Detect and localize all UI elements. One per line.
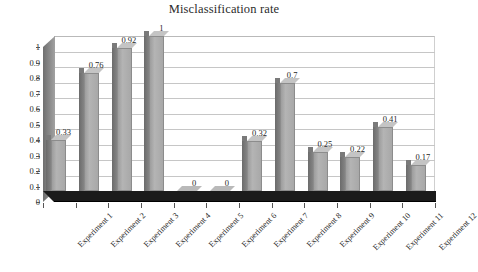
bar-front-face [411,165,426,191]
y-axis-tick-label: 0.1 [6,182,40,192]
x-axis-label: Experiment 8 [305,211,343,249]
x-axis-tick-mark [76,203,77,208]
x-axis-label: Experiment 2 [109,211,147,249]
x-axis-tick-mark [206,203,207,208]
bar-front-face [345,157,360,191]
y-axis-tick-mark [36,63,40,64]
bar-front-face [51,140,66,191]
bar-front-face [378,127,393,191]
bar[interactable]: 0.92 [117,48,132,191]
y-axis: 10.90.80.70.60.50.40.30.20.10 [0,36,40,202]
x-axis-tick-mark [402,203,403,208]
y-axis-tick-label: 0 [6,197,40,207]
x-axis-tick-mark [108,203,109,208]
bar[interactable]: 0.32 [247,141,262,191]
bar-value-label: 0.76 [80,60,112,70]
bar[interactable]: 0.33 [51,140,66,191]
bar-value-label: 0.92 [113,35,145,45]
bar-front-face [280,83,295,192]
bar-front-face [117,48,132,191]
x-axis-tick-mark [435,203,436,208]
y-axis-tick-label: 0.2 [6,166,40,176]
y-axis-tick-mark [36,140,40,141]
y-axis-tick-label: 0.9 [6,58,40,68]
x-axis-tick-mark [239,203,240,208]
x-axis-tick-mark [43,203,44,208]
bar[interactable]: 0.25 [313,152,328,191]
bar-value-label: 1 [145,23,177,33]
y-axis-tick-mark [36,109,40,110]
bar-value-label: 0.22 [341,144,373,154]
y-axis-tick-mark [36,187,40,188]
bar-value-label: 0.7 [276,70,308,80]
bar[interactable]: 0.17 [411,165,426,191]
y-axis-tick-mark [36,47,40,48]
chart-title: Misclassification rate [0,2,448,17]
y-axis-tick-mark [36,156,40,157]
bar[interactable]: 0.41 [378,127,393,191]
x-axis-tick-mark [174,203,175,208]
bar-front-face [84,73,99,191]
y-axis-tick-label: 0.3 [6,151,40,161]
x-axis-label: Experiment 5 [207,211,245,249]
bar-value-label: 0.41 [374,114,406,124]
y-axis-tick-label: 0.7 [6,89,40,99]
bar-value-label: 0.32 [243,128,275,138]
bar-value-label: 0 [211,178,243,188]
bar-value-label: 0.17 [407,152,439,162]
bar-value-label: 0.25 [309,139,341,149]
bar[interactable]: 0.22 [345,157,360,191]
y-axis-tick-label: 1 [6,42,40,52]
y-axis-tick-label: 0.6 [6,104,40,114]
y-axis-tick-mark [36,125,40,126]
bar-front-face [247,141,262,191]
y-axis-tick-mark [36,171,40,172]
x-axis-tick-mark [370,203,371,208]
x-axis-tick-mark [337,203,338,208]
bar-series: 0.330.760.921000.320.70.250.220.410.17 [43,36,435,202]
y-axis-tick-mark [36,202,40,203]
x-axis-labels: Experiment 1Experiment 2Experiment 3Expe… [43,203,435,272]
x-axis-tick-mark [272,203,273,208]
x-axis-tick-mark [304,203,305,208]
bar-value-label: 0 [178,178,210,188]
y-axis-tick-label: 0.8 [6,73,40,83]
bar-front-face [313,152,328,191]
bar[interactable]: 0.76 [84,73,99,191]
y-axis-tick-label: 0.5 [6,120,40,130]
bar[interactable]: 0.7 [280,83,295,192]
bar[interactable]: 1 [149,36,164,191]
bar-front-face [149,36,164,191]
bar-value-label: 0.33 [47,127,79,137]
y-axis-tick-label: 0.4 [6,135,40,145]
y-axis-tick-mark [36,94,40,95]
x-axis-tick-mark [141,203,142,208]
y-axis-tick-mark [36,78,40,79]
